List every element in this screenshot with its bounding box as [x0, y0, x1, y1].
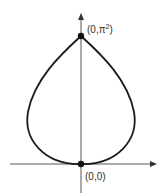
curve-diagram: (0,π2) (0,0) [0, 0, 166, 193]
origin-point-label: (0,0) [85, 171, 106, 182]
origin-point-marker [78, 161, 84, 167]
x-axis-arrow-icon [150, 161, 157, 167]
top-point-label: (0,π2) [87, 23, 113, 35]
y-axis-arrow-icon [78, 13, 84, 20]
top-point-marker [78, 33, 84, 39]
